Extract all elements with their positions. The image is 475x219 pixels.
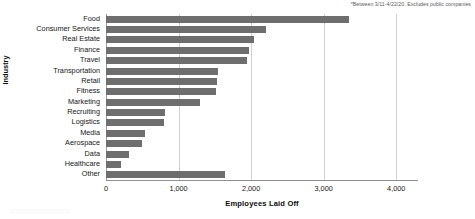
x-tick-label: 0 bbox=[104, 184, 108, 193]
category-label: Fitness bbox=[76, 87, 100, 95]
category-label: Real Estate bbox=[62, 35, 100, 43]
category-axis-labels: FoodConsumer ServicesReal EstateFinanceT… bbox=[0, 14, 103, 180]
y-axis-title-text: Industry bbox=[1, 55, 10, 84]
chart-screenshot: *Between 3/11-4/22/20. Excludes public c… bbox=[0, 0, 475, 219]
bar-row bbox=[106, 56, 418, 66]
bar bbox=[106, 47, 249, 54]
category-label: Media bbox=[80, 129, 100, 137]
bar bbox=[106, 16, 349, 23]
bar bbox=[106, 119, 164, 126]
bar-row bbox=[106, 149, 418, 159]
bar-row bbox=[106, 139, 418, 149]
bar bbox=[106, 26, 266, 33]
bar-row bbox=[106, 128, 418, 138]
bar-row bbox=[106, 97, 418, 107]
x-axis-title: Employees Laid Off bbox=[106, 199, 418, 208]
bar-row bbox=[106, 45, 418, 55]
bar-row bbox=[106, 24, 418, 34]
category-label: Aerospace bbox=[65, 139, 100, 147]
bar bbox=[106, 99, 200, 106]
category-label: Other bbox=[82, 170, 100, 178]
category-label: Retail bbox=[81, 77, 100, 85]
bar-row bbox=[106, 14, 418, 24]
bar-row bbox=[106, 66, 418, 76]
bar bbox=[106, 57, 247, 64]
bar bbox=[106, 68, 218, 75]
bar-row bbox=[106, 159, 418, 169]
bar bbox=[106, 78, 217, 85]
bar bbox=[106, 171, 225, 178]
bar bbox=[106, 161, 121, 168]
category-label: Food bbox=[83, 15, 100, 23]
bar bbox=[106, 36, 254, 43]
page-artifact bbox=[10, 209, 70, 214]
bar-row bbox=[106, 35, 418, 45]
bar-row bbox=[106, 107, 418, 117]
category-label: Finance bbox=[74, 46, 100, 54]
plot-area bbox=[106, 14, 418, 180]
footnote-text: *Between 3/11-4/22/20. Excludes public c… bbox=[351, 1, 471, 8]
category-label: Transportation bbox=[53, 67, 100, 75]
x-tick-label: 1,000 bbox=[169, 184, 187, 193]
bar-row bbox=[106, 118, 418, 128]
category-label: Marketing bbox=[68, 98, 100, 106]
category-label: Consumer Services bbox=[36, 25, 100, 33]
category-label: Travel bbox=[80, 56, 100, 64]
bar-row bbox=[106, 76, 418, 86]
category-label: Recruiting bbox=[67, 108, 100, 116]
bar bbox=[106, 151, 129, 158]
category-label: Logistics bbox=[72, 118, 100, 126]
x-tick-label: 3,000 bbox=[315, 184, 333, 193]
y-axis-title: Industry bbox=[1, 41, 10, 70]
bar bbox=[106, 88, 216, 95]
x-tick-label: 2,000 bbox=[242, 184, 260, 193]
bar bbox=[106, 109, 165, 116]
x-tick-label: 4,000 bbox=[387, 184, 405, 193]
x-axis-line bbox=[106, 180, 418, 181]
bar-row bbox=[106, 170, 418, 180]
category-label: Healthcare bbox=[65, 160, 100, 168]
bar bbox=[106, 130, 145, 137]
bar-row bbox=[106, 87, 418, 97]
bar bbox=[106, 140, 142, 147]
category-label: Data bbox=[85, 150, 100, 158]
